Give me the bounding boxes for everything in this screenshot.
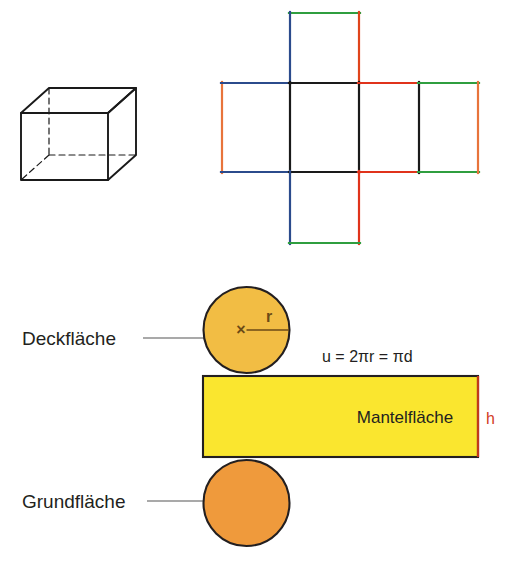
cuboid-wireframe	[21, 88, 136, 180]
cuboid-hidden-depth-left	[21, 155, 49, 180]
cube-net-face-bottom	[289, 171, 360, 244]
deckflaeche-label: Deckfläche	[22, 328, 116, 349]
cuboid-hidden-edges	[21, 88, 136, 180]
cuboid-right-face-edges	[108, 88, 136, 180]
geometry-figure-sheet: × r Deckfläche Grundfläche u = 2πr = πd …	[0, 0, 513, 569]
umfang-formula: u = 2πr = πd	[322, 348, 413, 365]
cube-net-face-top	[289, 12, 360, 84]
cuboid-front-face-edges	[21, 113, 108, 180]
height-label: h	[486, 410, 495, 427]
radius-label: r	[266, 308, 272, 325]
cuboid-top-face-edges	[21, 88, 136, 113]
grundflaeche-circle	[204, 460, 290, 546]
grundflaeche-label: Grundfläche	[22, 491, 126, 512]
cube-net	[221, 12, 479, 244]
cube-net-face-right-inner	[358, 82, 420, 173]
cube-net-face-left	[221, 82, 291, 173]
figure-canvas: × r Deckfläche Grundfläche u = 2πr = πd …	[0, 0, 513, 569]
center-marker: ×	[236, 321, 245, 338]
cube-net-face-right-outer	[418, 82, 479, 173]
cube-net-face-center	[289, 82, 360, 173]
mantelflaeche-label: Mantelfläche	[357, 408, 453, 427]
